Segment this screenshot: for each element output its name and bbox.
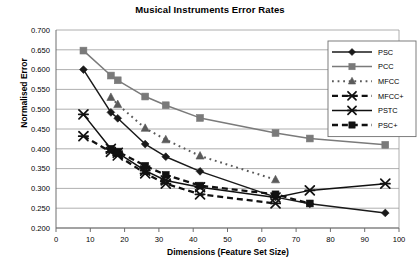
- marker-diamond: [80, 66, 88, 74]
- chart-legend: PSCPCCMFCCMFCC+PSTCPSC+: [328, 41, 416, 137]
- y-tick-label: 0.500: [31, 105, 50, 114]
- marker-diamond: [162, 153, 170, 161]
- marker-square: [142, 162, 149, 169]
- y-tick-label: 0.600: [31, 65, 50, 74]
- legend-label: PCC: [378, 62, 394, 71]
- marker-square: [80, 47, 87, 54]
- marker-x-star: [381, 179, 390, 188]
- marker-square: [349, 63, 355, 69]
- x-tick-label: 0: [54, 235, 58, 244]
- x-tick-label: 10: [86, 235, 94, 244]
- marker-square: [114, 77, 121, 84]
- legend-label: MFCC+: [378, 92, 404, 101]
- marker-square: [306, 200, 313, 207]
- x-tick-label: 50: [223, 235, 231, 244]
- x-tick-label: 70: [292, 235, 300, 244]
- x-tick-label: 90: [360, 235, 368, 244]
- series-psc-plus: [107, 145, 313, 206]
- x-tick-label: 80: [326, 235, 334, 244]
- legend-label: MFCC: [378, 77, 400, 86]
- marker-x-star: [305, 186, 314, 195]
- marker-square: [272, 130, 279, 137]
- y-tick-label: 0.300: [31, 184, 50, 193]
- x-tick-label: 20: [120, 235, 128, 244]
- marker-square: [382, 141, 389, 148]
- marker-square: [107, 145, 114, 152]
- marker-square: [142, 93, 149, 100]
- marker-x-star: [79, 110, 88, 119]
- y-tick-label: 0.550: [31, 85, 50, 94]
- marker-square: [162, 172, 169, 179]
- chart-plot-area: 0.2000.2500.3000.3500.4000.4500.5000.550…: [0, 0, 420, 268]
- legend-box: [328, 41, 416, 137]
- y-tick-label: 0.200: [31, 224, 50, 233]
- legend-label: PSC+: [378, 121, 398, 130]
- y-tick-label: 0.350: [31, 164, 50, 173]
- series-mfcc-plus: [79, 132, 280, 208]
- marker-square: [306, 135, 313, 142]
- marker-diamond: [381, 209, 389, 217]
- legend-label: PSTC: [378, 106, 398, 115]
- y-tick-label: 0.650: [31, 46, 50, 55]
- marker-x-star: [79, 132, 88, 141]
- marker-square: [114, 148, 121, 155]
- marker-square: [197, 114, 204, 121]
- chart-container: Musical Instruments Error Rates Normalis…: [0, 0, 420, 268]
- marker-square: [162, 102, 169, 109]
- marker-triangle: [196, 152, 204, 160]
- series-mfcc: [107, 93, 280, 183]
- marker-square: [107, 72, 114, 79]
- x-tick-label: 60: [258, 235, 266, 244]
- marker-triangle: [141, 124, 149, 132]
- marker-square: [272, 191, 279, 198]
- marker-square: [349, 122, 355, 128]
- marker-triangle: [271, 175, 279, 183]
- marker-triangle: [162, 135, 170, 143]
- y-tick-label: 0.700: [31, 26, 50, 35]
- y-tick-label: 0.250: [31, 204, 50, 213]
- x-tick-label: 30: [155, 235, 163, 244]
- marker-triangle: [107, 93, 115, 101]
- x-tick-label: 100: [393, 235, 406, 244]
- marker-square: [197, 182, 204, 189]
- y-tick-label: 0.450: [31, 125, 50, 134]
- legend-label: PSC: [378, 48, 394, 57]
- y-tick-label: 0.400: [31, 145, 50, 154]
- x-tick-label: 40: [189, 235, 197, 244]
